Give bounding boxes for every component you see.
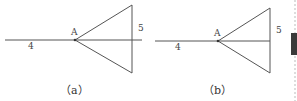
apex-point-b: [217, 40, 220, 43]
caption-a: （a）: [60, 84, 89, 97]
segment-label-5-b: 5: [276, 25, 282, 35]
apex-point-a: [74, 39, 77, 42]
segment-label-4-b: 4: [175, 42, 181, 52]
triangle-lower-edge-b: [218, 41, 270, 73]
side-bar-marker: [291, 33, 297, 55]
caption-b: （b）: [203, 84, 232, 97]
segment-label-4-a: 4: [28, 41, 34, 51]
apex-label-a: A: [70, 27, 78, 37]
diagram-canvas: A 4 5 （a） A 4 5 （b）: [0, 0, 297, 101]
figure-a: A 4 5 （a）: [5, 5, 144, 97]
segment-label-5-a: 5: [138, 23, 144, 33]
triangle-upper-edge-a: [75, 5, 132, 40]
figure-b: A 4 5 （b）: [155, 8, 282, 97]
triangle-upper-edge-b: [218, 8, 270, 41]
apex-label-b: A: [213, 28, 221, 38]
triangle-lower-edge-a: [75, 40, 132, 73]
